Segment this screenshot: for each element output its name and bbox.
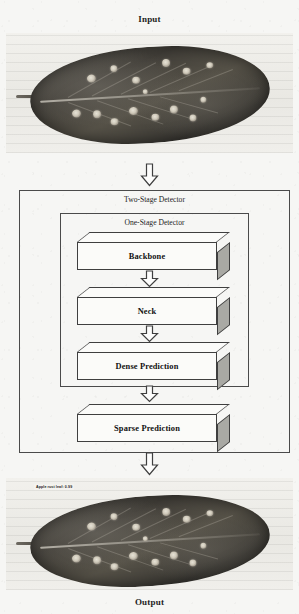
arrow-backbone-to-neck-icon xyxy=(140,270,159,288)
sparse-prediction-label: Sparse Prediction xyxy=(114,424,180,433)
arrow-neck-to-dense-prediction-icon xyxy=(140,325,159,343)
sparse-prediction-block-front-face: Sparse Prediction xyxy=(77,414,217,442)
backbone-label: Backbone xyxy=(129,252,166,261)
two-stage-detector-label: Two-Stage Detector xyxy=(20,195,289,204)
rust-lesion xyxy=(151,558,159,565)
rust-lesion xyxy=(110,513,117,520)
rust-lesion xyxy=(162,507,170,515)
rust-lesion xyxy=(129,552,138,561)
output-image: Apple rust leaf: 0.99 xyxy=(6,478,293,590)
rust-lesion xyxy=(110,563,118,570)
dense-prediction-block: Dense Prediction xyxy=(77,342,230,380)
rust-lesion xyxy=(201,542,207,548)
rust-lesion xyxy=(142,536,147,541)
output-caption: Output xyxy=(0,597,299,607)
sparse-prediction-block-top-face xyxy=(77,404,230,414)
rust-lesion xyxy=(86,522,95,531)
dense-prediction-block-top-face xyxy=(77,342,230,352)
arrow-dense-to-sparse-prediction-icon xyxy=(140,385,159,403)
sparse-prediction-block: Sparse Prediction xyxy=(77,404,230,442)
dense-prediction-block-front-face: Dense Prediction xyxy=(77,352,217,380)
rust-lesion xyxy=(182,515,190,522)
detection-label: Apple rust leaf: 0.99 xyxy=(34,484,74,490)
backbone-block-front-face: Backbone xyxy=(77,242,217,270)
neck-block: Neck xyxy=(77,287,230,325)
rust-lesion xyxy=(170,551,178,559)
rust-lesion xyxy=(206,510,213,516)
arrow-input-to-detector-icon xyxy=(140,163,159,187)
rust-lesion xyxy=(71,554,80,563)
one-stage-detector-label: One-Stage Detector xyxy=(61,218,248,227)
figure-page: Input xyxy=(0,0,299,614)
neck-block-front-face: Neck xyxy=(77,297,217,325)
backbone-block: Backbone xyxy=(77,232,230,270)
neck-block-top-face xyxy=(77,287,230,297)
backbone-block-top-face xyxy=(77,232,230,242)
arrow-detector-to-output-icon xyxy=(140,452,159,476)
rust-lesion xyxy=(93,556,101,564)
rust-lesion xyxy=(190,559,197,566)
dense-prediction-label: Dense Prediction xyxy=(116,362,179,371)
neck-label: Neck xyxy=(138,307,157,316)
